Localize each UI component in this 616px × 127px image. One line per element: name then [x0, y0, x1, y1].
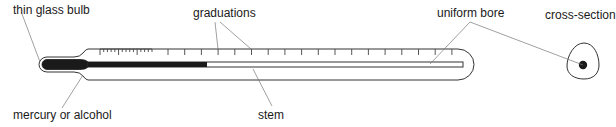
leader-cross-section — [470, 22, 583, 65]
leader-bulb — [22, 14, 40, 62]
liquid-column — [88, 62, 207, 67]
bulb-liquid — [42, 60, 88, 70]
label-mercury-or-alcohol: mercury or alcohol — [13, 108, 112, 122]
label-uniform-bore: uniform bore — [437, 6, 504, 20]
leader-stem — [253, 69, 272, 106]
leader-graduations-1 — [215, 22, 218, 49]
leader-liquid — [62, 75, 83, 108]
label-stem: stem — [258, 108, 284, 122]
leader-graduations-2 — [220, 22, 251, 49]
label-thin-glass-bulb: thin glass bulb — [13, 3, 90, 17]
label-graduations: graduations — [193, 6, 256, 20]
graduation-ticks — [100, 49, 452, 55]
label-cross-section: cross-section — [545, 8, 616, 22]
thermometer-diagram: thin glass bulb graduations uniform bore… — [0, 0, 616, 127]
leader-bore — [430, 22, 470, 64]
